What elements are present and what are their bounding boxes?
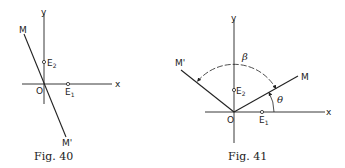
- fig41-y-label: y: [231, 13, 237, 23]
- fig41-origin-label: O: [227, 115, 234, 125]
- fig40-y-label: y: [41, 7, 47, 17]
- fig40-label-m-prime: M': [62, 138, 72, 148]
- figure-40: y x M M' O E2 E1 Fig. 40: [19, 7, 121, 163]
- fig41-label-e1: E1: [259, 115, 269, 126]
- fig40-caption: Fig. 40: [34, 150, 73, 163]
- fig41-theta-arc: [269, 93, 274, 113]
- fig41-label-m-prime: M': [175, 58, 185, 68]
- fig41-beta-arc: [198, 64, 276, 88]
- fig41-beta-label: β: [241, 51, 248, 62]
- fig40-line-mm: [24, 34, 66, 137]
- fig40-label-e1: E1: [65, 87, 75, 98]
- diagram-canvas: y x M M' O E2 E1 Fig. 40 y x M M' O E2 E…: [0, 0, 345, 168]
- figure-41: y x M M' O E2 E1 β θ Fig. 41: [175, 13, 332, 163]
- fig41-label-e2: E2: [236, 86, 246, 97]
- fig41-x-label: x: [326, 107, 332, 117]
- fig41-caption: Fig. 41: [228, 150, 267, 163]
- fig41-label-m: M: [301, 72, 309, 82]
- fig40-label-e2: E2: [47, 58, 57, 69]
- fig40-label-m: M: [19, 25, 27, 35]
- fig41-line-om-prime: [181, 70, 234, 112]
- fig40-point-e1: [66, 82, 69, 85]
- fig41-theta-label: θ: [277, 94, 283, 105]
- fig40-point-e2: [42, 60, 45, 63]
- fig41-point-e1: [260, 110, 263, 113]
- fig40-x-label: x: [115, 79, 121, 89]
- fig40-origin-label: O: [36, 86, 43, 96]
